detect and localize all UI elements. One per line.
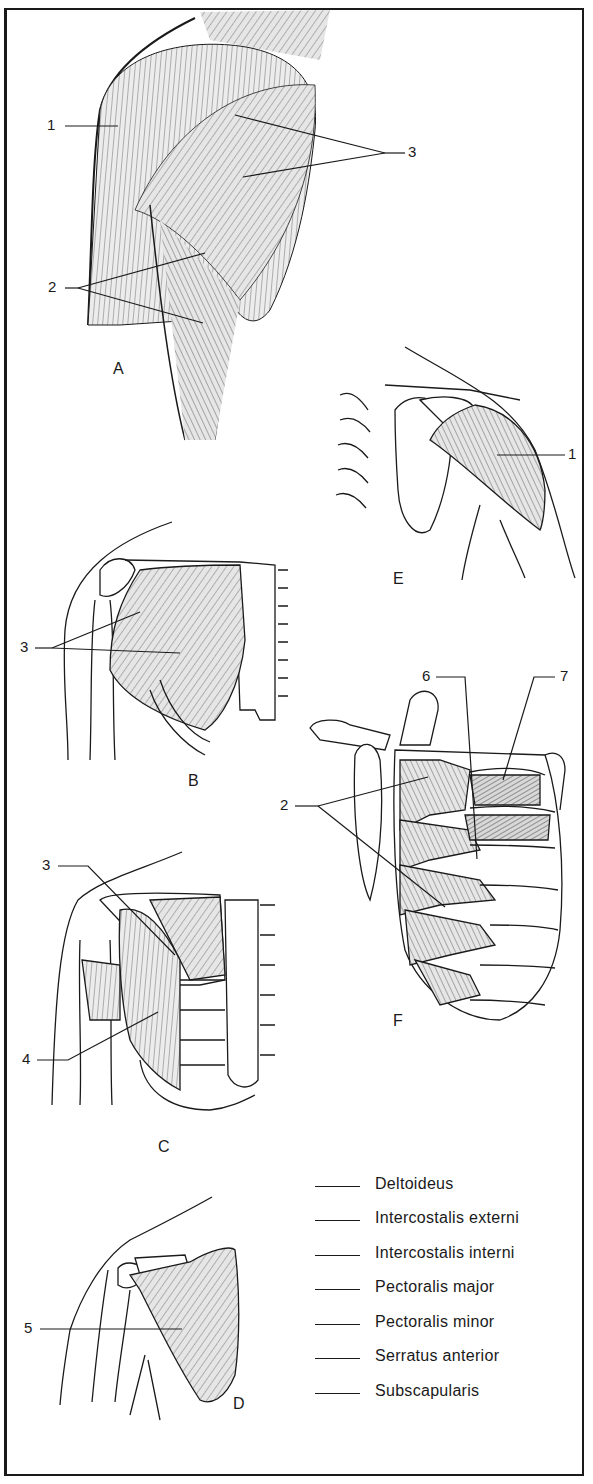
legend-item: Serratus anterior: [315, 1331, 519, 1366]
callout-d-5: 5: [24, 1320, 32, 1336]
callout-c-3: 3: [42, 857, 50, 873]
panel-label-a: A: [113, 360, 124, 378]
legend-term: Deltoideus: [375, 1175, 454, 1193]
answer-blank[interactable]: [315, 1324, 360, 1325]
answer-blank[interactable]: [315, 1358, 360, 1359]
legend-term: Pectoralis minor: [375, 1313, 495, 1331]
panel-label-b: B: [188, 772, 199, 790]
callout-a-1: 1: [47, 117, 55, 133]
panel-d-drawing: [60, 1197, 239, 1420]
panel-label-e: E: [393, 570, 404, 588]
answer-blank[interactable]: [315, 1393, 360, 1394]
panel-a-drawing: [88, 10, 330, 440]
callout-a-2: 2: [48, 279, 56, 295]
legend-item: Deltoideus: [315, 1158, 519, 1193]
panel-label-f: F: [393, 1012, 403, 1030]
callout-a-3: 3: [408, 144, 416, 160]
legend-term: Intercostalis interni: [375, 1244, 515, 1262]
legend-term: Intercostalis externi: [375, 1209, 519, 1227]
answer-blank[interactable]: [315, 1255, 360, 1256]
callout-f-7: 7: [560, 668, 568, 684]
callout-f-6: 6: [422, 668, 430, 684]
callout-b-3: 3: [20, 639, 28, 655]
panel-e-drawing: [336, 347, 575, 580]
legend-item: Subscapularis: [315, 1365, 519, 1400]
legend-item: Pectoralis major: [315, 1262, 519, 1297]
panel-f-drawing: [310, 691, 565, 1020]
callout-e-1: 1: [568, 446, 576, 462]
legend-item: Intercostalis externi: [315, 1193, 519, 1228]
legend-answer-list: Deltoideus Intercostalis externi Interco…: [315, 1158, 519, 1400]
panel-c-drawing: [52, 852, 275, 1110]
callout-f-2: 2: [280, 797, 288, 813]
legend-term: Pectoralis major: [375, 1278, 495, 1296]
legend-item: Pectoralis minor: [315, 1296, 519, 1331]
answer-blank[interactable]: [315, 1220, 360, 1221]
legend-term: Serratus anterior: [375, 1347, 499, 1365]
answer-blank[interactable]: [315, 1289, 360, 1290]
panel-b-drawing: [64, 522, 288, 760]
answer-blank[interactable]: [315, 1186, 360, 1187]
callout-c-4: 4: [22, 1051, 30, 1067]
panel-label-c: C: [158, 1138, 170, 1156]
legend-term: Subscapularis: [375, 1382, 479, 1400]
panel-label-d: D: [233, 1395, 245, 1413]
legend-item: Intercostalis interni: [315, 1227, 519, 1262]
